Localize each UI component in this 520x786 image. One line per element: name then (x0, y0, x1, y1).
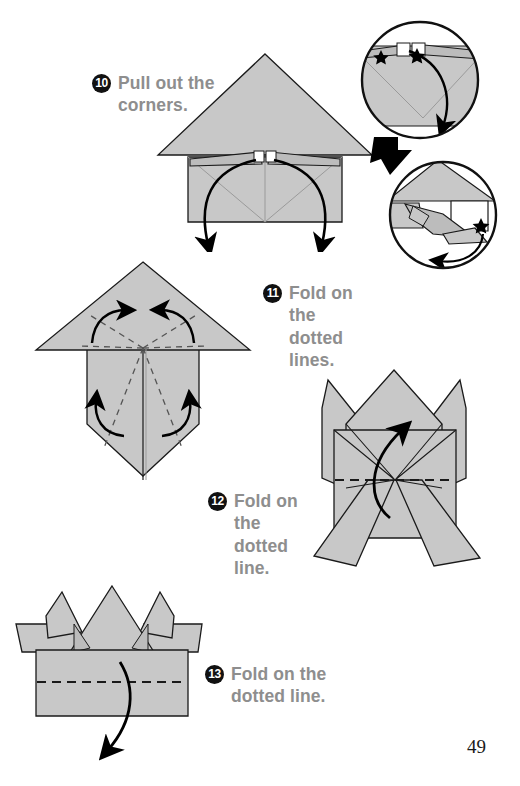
step-instruction-12: Fold on the dotted line. (234, 490, 318, 580)
page-number: 49 (467, 736, 486, 758)
step-instruction-11: Fold on the dotted lines. (289, 282, 373, 372)
diagram-step-11 (32, 258, 254, 486)
step-number-badge-12: 12 (208, 492, 227, 511)
step-instruction-10: Pull out the corners. (118, 72, 214, 117)
step-caption-11: 11 Fold on the dotted lines. (263, 282, 373, 372)
detail-circle-after-pull (383, 156, 507, 276)
step-number-badge-13: 13 (205, 665, 224, 684)
paper-body-box-13 (36, 650, 188, 716)
step-caption-12: 12 Fold on the dotted line. (208, 490, 318, 580)
step-number-badge-10: 10 (92, 74, 111, 93)
origami-instruction-page: 10 Pull out the corners. (0, 0, 520, 786)
diagram-step-12 (310, 368, 510, 573)
detail-circle-before-pull (353, 18, 493, 146)
step-caption-10: 10 Pull out the corners. (92, 72, 242, 117)
step-caption-13: 13 Fold on the dotted line. (205, 663, 355, 708)
closeup-left-pocket (397, 43, 410, 56)
diagram-step-13 (12, 576, 212, 762)
paper-triangle-roof-11 (36, 262, 250, 350)
step-instruction-13: Fold on the dotted line. (231, 663, 326, 708)
step-number-badge-11: 11 (263, 284, 282, 303)
